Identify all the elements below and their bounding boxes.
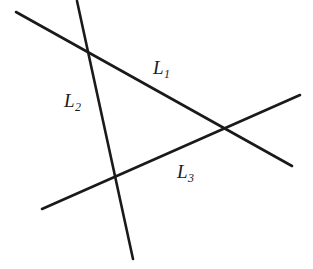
- label-L2-base: L: [64, 90, 75, 111]
- label-L2-subscript: 2: [75, 100, 81, 114]
- label-line-L2: L2: [64, 91, 81, 110]
- label-line-L1: L1: [153, 58, 170, 77]
- diagram-canvas: L1 L2 L3: [0, 0, 313, 269]
- label-L1-subscript: 1: [164, 67, 170, 81]
- line-L1: [16, 12, 292, 166]
- label-line-L3: L3: [177, 162, 194, 181]
- line-L2: [77, 1, 133, 259]
- label-L3-base: L: [177, 161, 188, 182]
- label-L3-subscript: 3: [188, 171, 194, 185]
- diagram-svg: [0, 0, 313, 269]
- label-L1-base: L: [153, 57, 164, 78]
